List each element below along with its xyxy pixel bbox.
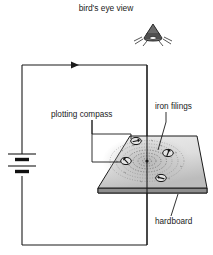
birds-eye-view-label: bird's eye view <box>79 3 135 13</box>
plotting-compass-leader-upper <box>92 120 131 139</box>
compass-icon[interactable] <box>163 149 174 156</box>
hardboard-leader <box>171 194 178 216</box>
compass-icon[interactable] <box>156 174 167 181</box>
compass-icon[interactable] <box>121 157 132 164</box>
plotting-compass-label: plotting compass <box>51 110 112 119</box>
battery-icon <box>8 154 36 172</box>
hardboard-label: hardboard <box>155 217 193 226</box>
compass-icon[interactable] <box>131 137 142 144</box>
bird-icon <box>134 24 172 46</box>
diagram-canvas: bird's eye view <box>0 0 213 255</box>
current-direction-arrow-icon <box>71 61 79 68</box>
iron-filings-label: iron filings <box>155 102 192 111</box>
